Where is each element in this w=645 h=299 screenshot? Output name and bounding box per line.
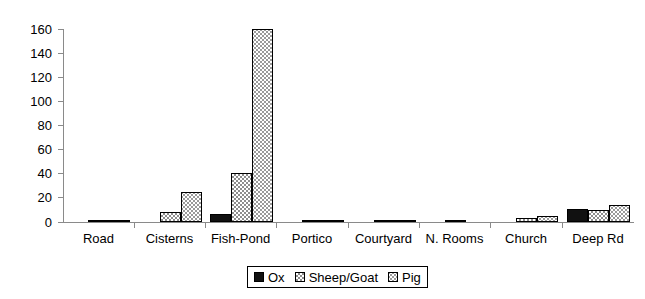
x-tickmark xyxy=(276,223,277,228)
bar-group-bars xyxy=(63,29,134,222)
x-tickmark xyxy=(562,223,563,228)
bar[interactable] xyxy=(374,220,395,222)
bar-group-bars xyxy=(277,29,348,222)
x-tick-label-n-rooms: N. Rooms xyxy=(419,231,490,246)
x-tick-label-road: Road xyxy=(63,231,134,246)
bar-group xyxy=(63,29,134,222)
y-tick-label-160: 160 xyxy=(0,23,52,36)
legend-item-pig[interactable]: Pig xyxy=(388,271,421,284)
bar-group-bars xyxy=(563,29,634,222)
bar[interactable] xyxy=(181,192,202,222)
x-tickmark xyxy=(419,223,420,228)
bar[interactable] xyxy=(537,216,558,222)
bar-group-bars xyxy=(349,29,420,222)
y-tick-label-80: 80 xyxy=(0,119,52,132)
y-tick-label-60: 60 xyxy=(0,143,52,156)
x-tick-label-courtyard: Courtyard xyxy=(348,231,419,246)
bar-group xyxy=(277,29,348,222)
x-tickmark xyxy=(205,223,206,228)
bar[interactable] xyxy=(109,220,130,222)
legend-label-ox: Ox xyxy=(268,271,285,284)
bar-group xyxy=(420,29,491,222)
bar[interactable] xyxy=(231,173,252,222)
bar-group xyxy=(563,29,634,222)
bar[interactable] xyxy=(516,218,537,222)
bar-group-bars xyxy=(134,29,205,222)
bar-group-bars xyxy=(420,29,491,222)
bar[interactable] xyxy=(323,220,344,222)
bar-group xyxy=(134,29,205,222)
x-tick-label-portico: Portico xyxy=(276,231,348,246)
bar[interactable] xyxy=(252,29,273,222)
bar-group xyxy=(206,29,277,222)
legend: Ox Sheep/Goat Pig xyxy=(247,266,428,288)
x-tickmark xyxy=(348,223,349,228)
legend-label-pig: Pig xyxy=(402,271,421,284)
y-tick-label-40: 40 xyxy=(0,167,52,180)
bar[interactable] xyxy=(302,220,323,222)
legend-swatch-ox xyxy=(254,272,264,282)
y-tick-label-0: 0 xyxy=(0,216,52,229)
legend-swatch-sheep-goat xyxy=(295,272,305,282)
x-tick-label-deep-rd: Deep Rd xyxy=(562,231,634,246)
legend-swatch-pig xyxy=(388,272,398,282)
bar[interactable] xyxy=(588,210,609,222)
bar-group xyxy=(491,29,562,222)
bar-group-bars xyxy=(206,29,277,222)
legend-item-ox[interactable]: Ox xyxy=(254,271,285,284)
legend-label-sheep-goat: Sheep/Goat xyxy=(309,271,378,284)
y-tick-label-140: 140 xyxy=(0,47,52,60)
bar[interactable] xyxy=(609,205,630,222)
y-tick-label-20: 20 xyxy=(0,191,52,204)
bar-group-bars xyxy=(491,29,562,222)
x-tickmark xyxy=(490,223,491,228)
bar-group xyxy=(349,29,420,222)
bar[interactable] xyxy=(445,220,466,222)
bar[interactable] xyxy=(395,220,416,222)
x-tick-label-cisterns: Cisterns xyxy=(134,231,205,246)
x-tick-label-fish-pond: Fish-Pond xyxy=(205,231,276,246)
y-tick-label-100: 100 xyxy=(0,95,52,108)
x-tick-label-church: Church xyxy=(490,231,562,246)
bar[interactable] xyxy=(567,209,588,222)
bar[interactable] xyxy=(160,212,181,222)
plot-area xyxy=(63,29,634,222)
bar-chart: 160 140 120 100 80 60 40 20 0 Road Ciste… xyxy=(0,0,645,299)
legend-item-sheep-goat[interactable]: Sheep/Goat xyxy=(295,271,378,284)
y-axis: 160 140 120 100 80 60 40 20 0 xyxy=(0,0,58,299)
bar[interactable] xyxy=(210,214,231,222)
y-tick-label-120: 120 xyxy=(0,71,52,84)
bar[interactable] xyxy=(88,220,109,222)
x-tickmark xyxy=(134,223,135,228)
